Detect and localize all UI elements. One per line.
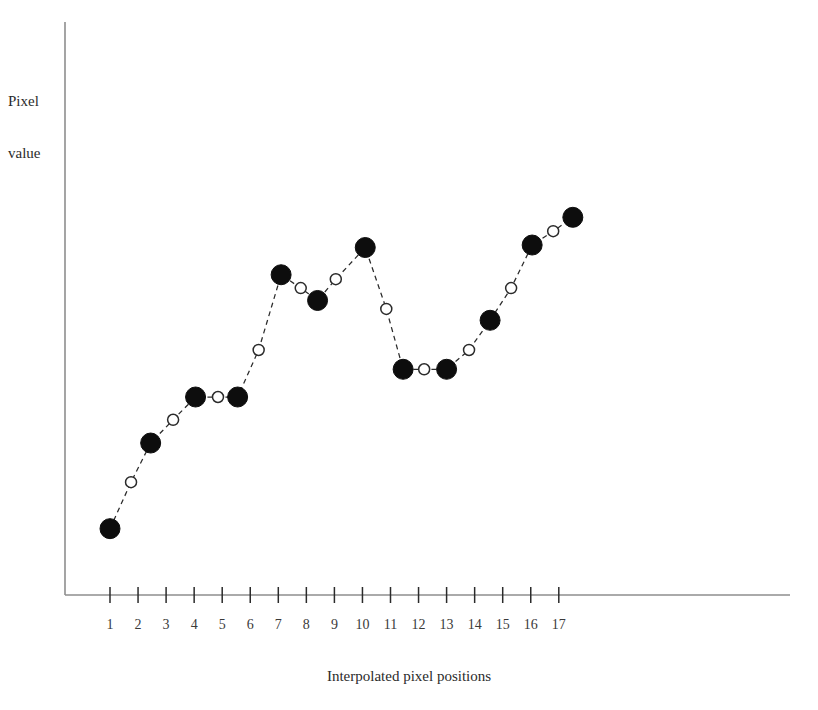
interpolated-pixel-point bbox=[253, 344, 264, 355]
original-pixel-point bbox=[437, 359, 457, 379]
x-axis-tick-label: 13 bbox=[432, 618, 462, 632]
x-axis-tick-label: 5 bbox=[207, 618, 237, 632]
x-axis-tick-label: 17 bbox=[544, 618, 574, 632]
x-axis-tick-label: 11 bbox=[376, 618, 406, 632]
x-axis-tick-label: 14 bbox=[460, 618, 490, 632]
original-pixel-point bbox=[480, 310, 500, 330]
interpolated-pixel-point bbox=[212, 392, 223, 403]
x-axis-tick-label: 12 bbox=[404, 618, 434, 632]
interpolated-pixel-point bbox=[168, 414, 179, 425]
original-pixel-point bbox=[308, 290, 328, 310]
x-axis-tick-label: 6 bbox=[235, 618, 265, 632]
original-pixel-point bbox=[228, 387, 248, 407]
interpolated-pixel-point bbox=[548, 226, 559, 237]
x-axis-tick-label: 7 bbox=[263, 618, 293, 632]
interpolated-pixel-point bbox=[464, 344, 475, 355]
plot-area bbox=[0, 0, 818, 710]
x-axis-title: Interpolated pixel positions bbox=[0, 668, 818, 685]
x-axis-tick-label: 4 bbox=[179, 618, 209, 632]
original-pixel-point bbox=[271, 265, 291, 285]
original-pixel-point bbox=[355, 238, 375, 258]
x-axis-tick-label: 1 bbox=[95, 618, 125, 632]
x-axis-tick-label: 2 bbox=[123, 618, 153, 632]
interpolated-pixel-point bbox=[295, 283, 306, 294]
original-pixel-point bbox=[522, 235, 542, 255]
x-axis-tick-label: 15 bbox=[488, 618, 518, 632]
interpolated-pixel-point bbox=[419, 364, 430, 375]
interpolated-pixel-point bbox=[126, 477, 137, 488]
original-pixel-point bbox=[100, 519, 120, 539]
original-pixel-point bbox=[563, 207, 583, 227]
x-axis-tick-label: 10 bbox=[347, 618, 377, 632]
interpolated-pixel-point bbox=[330, 274, 341, 285]
x-axis-tick-label: 8 bbox=[291, 618, 321, 632]
x-axis-tick-label: 16 bbox=[516, 618, 546, 632]
interpolated-point-markers bbox=[126, 226, 559, 488]
x-axis-tick-label: 9 bbox=[319, 618, 349, 632]
interpolated-pixel-point bbox=[506, 283, 517, 294]
x-axis-tick-label: 3 bbox=[151, 618, 181, 632]
original-pixel-point bbox=[186, 387, 206, 407]
data-connector-line bbox=[110, 217, 573, 528]
interpolated-pixel-point bbox=[381, 303, 392, 314]
original-pixel-point bbox=[141, 433, 161, 453]
original-pixel-point bbox=[393, 359, 413, 379]
chart-figure: Pixel value 1234567891011121314151617 In… bbox=[0, 0, 818, 710]
original-point-markers bbox=[100, 207, 583, 538]
